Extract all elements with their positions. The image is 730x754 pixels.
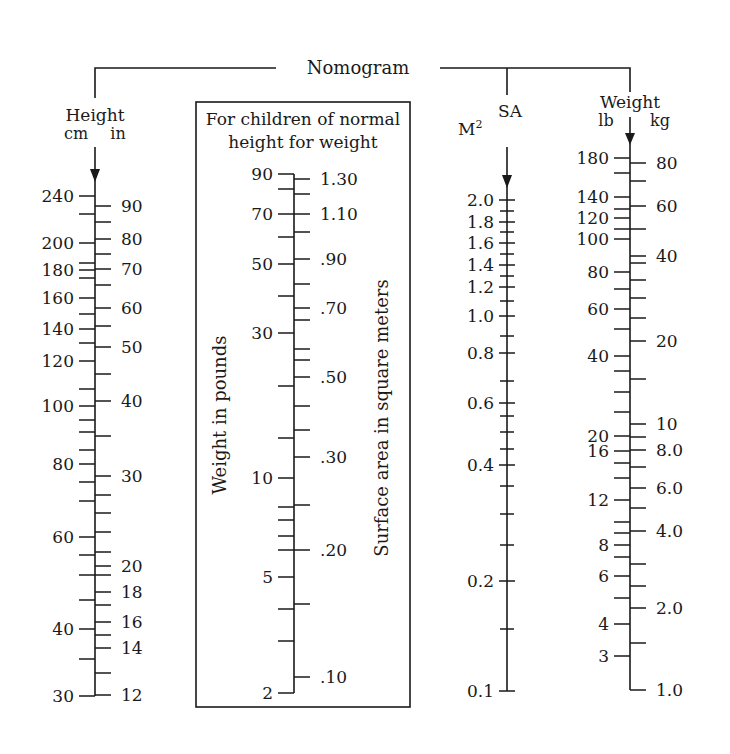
sa-ticks: 2.01.81.61.41.21.00.80.60.40.20.1 [467,147,515,701]
child-right-label: .20 [320,540,347,560]
child-right-label: .50 [320,367,347,387]
weight-right-label: 6.0 [656,478,683,498]
weight-left-label: 120 [577,208,609,228]
weight-ticks: 180140120100806040201612864380604020108.… [577,117,684,700]
height-left-label: 40 [52,619,74,639]
height-left-label: 60 [52,527,74,547]
nomogram-title: Nomogram [307,57,409,78]
weight-left-label: 100 [577,229,609,249]
weight-left-label: 3 [598,646,609,666]
height-left-label: 100 [42,396,74,416]
height-right-label: 90 [121,196,143,216]
sa-tick-label: 1.4 [467,255,494,275]
weight-left-label: 12 [587,490,609,510]
weight-unit-kg: kg [650,111,670,130]
height-left-label: 140 [42,319,74,339]
height-right-label: 20 [121,556,143,576]
title-bracket: Nomogram [95,57,630,98]
sa-tick-label: 1.8 [467,212,494,232]
height-left-label: 80 [52,454,74,474]
weight-right-label: 1.0 [656,680,683,700]
weight-right-label: 40 [656,246,678,266]
height-left-label: 200 [42,233,74,253]
height-title: Height [66,105,125,125]
sa-tick-label: 2.0 [467,190,494,210]
sa-tick-label: 0.1 [467,681,494,701]
height-left-label: 240 [42,186,74,206]
weight-right-label: 4.0 [656,521,683,541]
sa-tick-label: 0.4 [467,455,494,475]
bracket-left [95,68,276,98]
child-left-label: 10 [251,468,273,488]
height-right-label: 40 [121,391,143,411]
weight-right-label: 2.0 [656,598,683,618]
child-ticks: 9070503010521.301.10.90.70.50.30.20.10 [251,164,358,703]
height-left-label: 180 [42,260,74,280]
height-unit-in: in [110,124,125,143]
nomogram-figure: Nomogram Height cm in 240200180160140120… [0,0,730,754]
sa-scale: SA M2 2.01.81.61.41.21.00.80.60.40.20.1 [458,101,523,701]
sa-title: SA [498,101,523,121]
sa-tick-label: 1.6 [467,233,494,253]
weight-left-label: 80 [587,262,609,282]
nomogram-canvas: Nomogram Height cm in 240200180160140120… [0,0,730,754]
child-box-heading-line1: For children of normal [206,109,400,129]
child-right-label: 1.30 [320,169,358,189]
weight-in-pounds-label: Weight in pounds [209,336,230,495]
surface-area-label: Surface area in square meters [371,279,392,556]
child-box-heading-line2: height for weight [228,132,377,152]
child-right-label: .70 [320,298,347,318]
height-right-label: 80 [121,229,143,249]
weight-right-label: 20 [656,331,678,351]
weight-scale: Weight lb kg 180140120100806040201612864… [577,92,684,700]
height-right-label: 16 [121,612,143,632]
weight-left-label: 6 [598,566,609,586]
weight-right-label: 10 [656,414,678,434]
height-right-label: 18 [121,582,143,602]
weight-right-label: 60 [656,196,678,216]
child-right-label: .90 [320,249,347,269]
child-right-label: .30 [320,447,347,467]
child-left-label: 70 [251,204,273,224]
child-left-label: 90 [251,164,273,184]
weight-left-label: 16 [587,441,609,461]
child-box: For children of normal height for weight… [196,102,410,707]
sa-tick-label: 0.6 [467,393,494,413]
weight-left-label: 180 [577,148,609,168]
sa-tick-label: 1.0 [467,306,494,326]
height-unit-cm: cm [64,124,88,143]
weight-title: Weight [600,92,660,112]
child-right-label: .10 [320,667,347,687]
height-right-label: 12 [121,685,143,705]
height-left-label: 120 [42,351,74,371]
child-left-label: 50 [251,254,273,274]
weight-left-label: 40 [587,346,609,366]
height-left-label: 160 [42,288,74,308]
height-right-label: 60 [121,298,143,318]
weight-left-label: 4 [598,614,609,634]
sa-tick-label: 1.2 [467,277,494,297]
child-left-label: 30 [251,323,273,343]
bracket-right [440,68,630,92]
sa-unit: M2 [458,118,482,139]
height-right-label: 70 [121,259,143,279]
height-left-label: 30 [52,686,74,706]
child-right-label: 1.10 [320,204,358,224]
weight-right-label: 80 [656,153,678,173]
height-scale: Height cm in 240200180160140120100806040… [42,105,143,706]
sa-tick-label: 0.8 [467,343,494,363]
height-right-label: 50 [121,337,143,357]
height-ticks: 2402001801601401201008060403090807060504… [42,147,143,706]
child-left-label: 2 [262,683,273,703]
weight-left-label: 8 [598,535,609,555]
weight-left-label: 140 [577,187,609,207]
weight-left-label: 60 [587,299,609,319]
height-right-label: 14 [121,638,143,658]
child-left-label: 5 [262,567,273,587]
sa-tick-label: 0.2 [467,571,494,591]
height-right-label: 30 [121,466,143,486]
weight-unit-lb: lb [598,111,613,130]
weight-right-label: 8.0 [656,440,683,460]
